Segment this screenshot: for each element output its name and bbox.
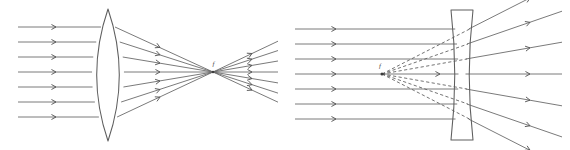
virtual-ray bbox=[382, 74, 467, 89]
refracted-ray bbox=[123, 57, 213, 72]
outgoing-ray bbox=[213, 72, 278, 93]
virtual-ray bbox=[382, 74, 469, 119]
focal-point-marker bbox=[212, 71, 215, 74]
refracted-ray bbox=[120, 42, 213, 72]
focal-point-label: f bbox=[213, 60, 216, 68]
virtual-focal-point-label: f bbox=[379, 62, 382, 70]
outgoing-ray bbox=[467, 11, 562, 44]
outgoing-ray bbox=[466, 89, 562, 106]
refracted-ray bbox=[121, 72, 213, 102]
outgoing-ray bbox=[213, 61, 278, 72]
outgoing-ray bbox=[469, 0, 562, 29]
virtual-ray bbox=[382, 29, 470, 74]
outgoing-ray bbox=[213, 72, 278, 102]
outgoing-ray bbox=[213, 51, 278, 72]
outgoing-ray bbox=[466, 42, 562, 59]
refracted-ray bbox=[117, 72, 213, 117]
diverging-lens-diagram: f bbox=[295, 0, 562, 150]
refracted-ray bbox=[115, 27, 213, 72]
converging-lens-diagram: f bbox=[18, 9, 278, 141]
refracted-ray bbox=[123, 72, 213, 87]
virtual-focal-point-marker bbox=[381, 73, 384, 76]
outgoing-ray bbox=[468, 119, 562, 150]
outgoing-ray bbox=[467, 104, 562, 137]
outgoing-ray bbox=[213, 41, 278, 72]
ray-diagram-canvas: f f bbox=[0, 0, 570, 150]
outgoing-ray bbox=[213, 72, 278, 83]
convex-lens-outline bbox=[97, 9, 120, 141]
optics-ray-diagram-figure: f f bbox=[0, 0, 570, 150]
